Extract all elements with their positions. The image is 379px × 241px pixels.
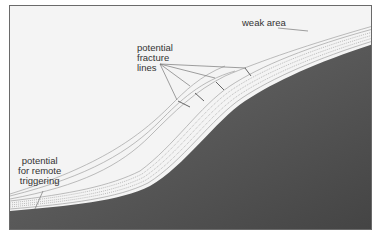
- fracture-lines-label: potential fracture lines: [137, 43, 173, 73]
- remote-triggering-label: potential for remote triggering: [18, 156, 61, 186]
- diagram-frame: weak area potential fracture lines poten…: [9, 5, 372, 230]
- slope-illustration: [10, 6, 372, 230]
- fracture-lines-label-line-3: lines: [137, 63, 173, 73]
- weak-area-label: weak area: [242, 18, 286, 28]
- remote-triggering-label-line-3: triggering: [18, 176, 61, 186]
- fracture-markers: [178, 68, 251, 107]
